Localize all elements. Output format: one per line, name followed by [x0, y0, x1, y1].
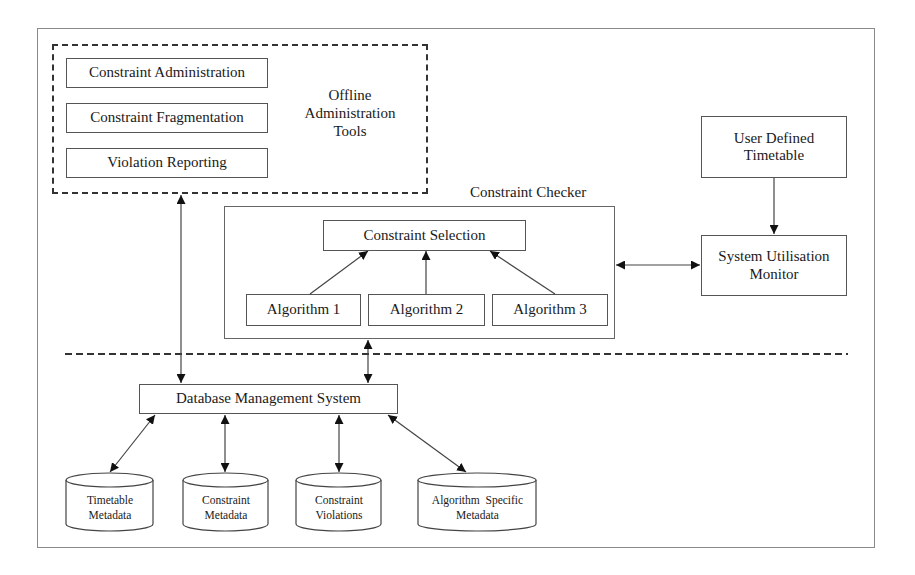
- constraint-violations-line-1: Constraint: [315, 493, 363, 508]
- timetable-metadata-label: Timetable Metadata: [66, 490, 154, 526]
- constraint-metadata-label: Constraint Metadata: [183, 490, 269, 526]
- arrow-alg3-selection: [490, 251, 555, 294]
- connectors-layer: [0, 0, 915, 575]
- constraint-violations-label: Constraint Violations: [296, 490, 382, 526]
- arrow-alg1-selection: [310, 251, 368, 294]
- timetable-metadata-line-2: Metadata: [89, 508, 132, 523]
- constraint-violations-line-2: Violations: [315, 508, 362, 523]
- constraint-metadata-line-1: Constraint: [202, 493, 250, 508]
- arrow-dbms-algorithm-metadata: [388, 415, 466, 472]
- algorithm-metadata-line-1: Algorithm Specific: [432, 493, 523, 508]
- timetable-metadata-line-1: Timetable: [87, 493, 133, 508]
- arrow-dbms-timetable-metadata: [110, 415, 155, 472]
- constraint-metadata-line-2: Metadata: [205, 508, 248, 523]
- algorithm-specific-metadata-label: Algorithm Specific Metadata: [418, 490, 537, 526]
- algorithm-metadata-line-2: Metadata: [456, 508, 499, 523]
